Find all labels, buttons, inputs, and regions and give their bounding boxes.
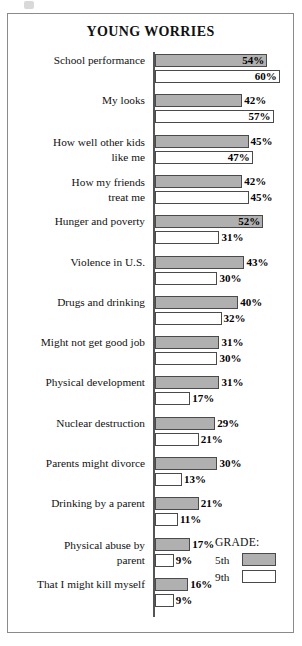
bar-rect: [155, 135, 249, 148]
chart-frame: YOUNG WORRIES School performance54%60%My…: [7, 13, 294, 633]
bar-value-label: 9%: [174, 553, 193, 567]
bar-grade9: 60%: [155, 70, 280, 83]
bar-value-label: 52%: [238, 214, 260, 228]
bar-row-group: Physical development31%17%: [8, 376, 295, 405]
bar-value-label: 21%: [199, 432, 223, 446]
bar-value-label: 13%: [182, 472, 206, 486]
legend-entry-5th: 5th: [215, 553, 293, 566]
bar-grade9: 31%: [155, 231, 219, 244]
bar-value-label: 30%: [217, 271, 241, 285]
bar-value-label: 30%: [217, 456, 241, 470]
bar-grade5: 45%: [155, 135, 249, 148]
bar-grade9: 57%: [155, 110, 274, 123]
bar-row-group: Parents might divorce30%13%: [8, 457, 295, 486]
bar-value-label: 17%: [190, 391, 214, 405]
legend-title: GRADE:: [215, 536, 293, 549]
category-label-line: Physical abuse by: [5, 538, 145, 554]
bar-grade9: 9%: [155, 554, 174, 567]
bar-rect: [155, 296, 238, 309]
category-label-line: parent: [5, 554, 145, 567]
legend-swatch-9th: [242, 570, 276, 583]
bar-value-label: 42%: [242, 93, 266, 107]
category-label: Drugs and drinking: [5, 296, 150, 309]
bar-rect: [155, 231, 219, 244]
legend-label-5th: 5th: [215, 554, 239, 566]
legend-label-9th: 9th: [215, 571, 239, 583]
bar-rect: [155, 256, 244, 269]
bar-rect: [155, 336, 219, 349]
category-label: Physical abuse byparent: [5, 538, 150, 567]
bar-rect: [155, 554, 174, 567]
scan-artifact: [24, 1, 34, 9]
category-label-line: How well other kids: [5, 135, 145, 151]
bar-rect: [155, 175, 242, 188]
legend-swatch-5th: [242, 553, 276, 566]
bar-grade9: 9%: [155, 594, 174, 607]
bar-grade9: 47%: [155, 151, 253, 164]
bar-grade5: 40%: [155, 296, 238, 309]
bar-grade5: 31%: [155, 376, 219, 389]
bar-row-group: Violence in U.S.43%30%: [8, 256, 295, 285]
bar-grade5: 30%: [155, 457, 217, 470]
bar-value-label: 54%: [242, 53, 264, 67]
bar-value-label: 9%: [174, 593, 193, 607]
bar-rect: [155, 312, 222, 325]
bar-value-label: 21%: [199, 496, 223, 510]
bar-row-group: Might not get good job31%30%: [8, 336, 295, 365]
bar-value-label: 45%: [249, 190, 273, 204]
bar-rect: [155, 352, 217, 365]
bar-row-group: Hunger and poverty52%31%: [8, 215, 295, 244]
category-label: Violence in U.S.: [5, 256, 150, 269]
bar-rect: [155, 191, 249, 204]
bar-rect: [155, 513, 178, 526]
bar-row-group: My looks42%57%: [8, 94, 295, 123]
bar-rect: [155, 473, 182, 486]
bar-value-label: 43%: [244, 255, 268, 269]
bar-rect: [155, 376, 219, 389]
bar-row-group: How well other kidslike me45%47%: [8, 135, 295, 164]
bar-value-label: 31%: [219, 335, 243, 349]
bar-value-label: 29%: [215, 416, 239, 430]
bar-grade9: 21%: [155, 433, 199, 446]
category-label: Physical development: [5, 376, 150, 389]
bar-grade5: 31%: [155, 336, 219, 349]
bar-grade9: 32%: [155, 312, 222, 325]
bar-grade9: 11%: [155, 513, 178, 526]
bar-grade5: 42%: [155, 175, 242, 188]
category-label-line: like me: [5, 151, 145, 164]
category-label-line: treat me: [5, 191, 145, 204]
bar-rect: [155, 392, 190, 405]
bar-value-label: 31%: [219, 375, 243, 389]
bar-row-group: School performance54%60%: [8, 54, 295, 83]
bar-row-group: Drinking by a parent21%11%: [8, 497, 295, 526]
bar-grade9: 30%: [155, 272, 217, 285]
bar-rect: [155, 433, 199, 446]
bar-row-group: Drugs and drinking40%32%: [8, 296, 295, 325]
bar-grade5: 43%: [155, 256, 244, 269]
category-label-line: How my friends: [5, 175, 145, 191]
legend-entry-9th: 9th: [215, 570, 293, 583]
bar-value-label: 30%: [217, 351, 241, 365]
bar-grade9: 17%: [155, 392, 190, 405]
bar-value-label: 32%: [222, 311, 246, 325]
bar-value-label: 40%: [238, 295, 262, 309]
bar-value-label: 11%: [178, 512, 201, 526]
bar-rect: [155, 594, 174, 607]
bar-row-group: How my friendstreat me42%45%: [8, 175, 295, 204]
bar-rect: [155, 457, 217, 470]
category-label: School performance: [5, 54, 150, 67]
category-label: Nuclear destruction: [5, 417, 150, 430]
bar-rect: [155, 94, 242, 107]
bar-rect: [155, 578, 188, 591]
bar-grade5: 54%: [155, 54, 267, 67]
bar-value-label: 60%: [255, 69, 277, 83]
category-label: That I might kill myself: [5, 578, 150, 591]
category-label: How my friendstreat me: [5, 175, 150, 204]
category-label: Hunger and poverty: [5, 215, 150, 228]
bar-grade5: 29%: [155, 417, 215, 430]
bar-value-label: 47%: [228, 150, 250, 164]
bar-grade5: 52%: [155, 215, 263, 228]
bar-grade9: 13%: [155, 473, 182, 486]
bar-value-label: 17%: [190, 537, 214, 551]
bar-grade5: 16%: [155, 578, 188, 591]
